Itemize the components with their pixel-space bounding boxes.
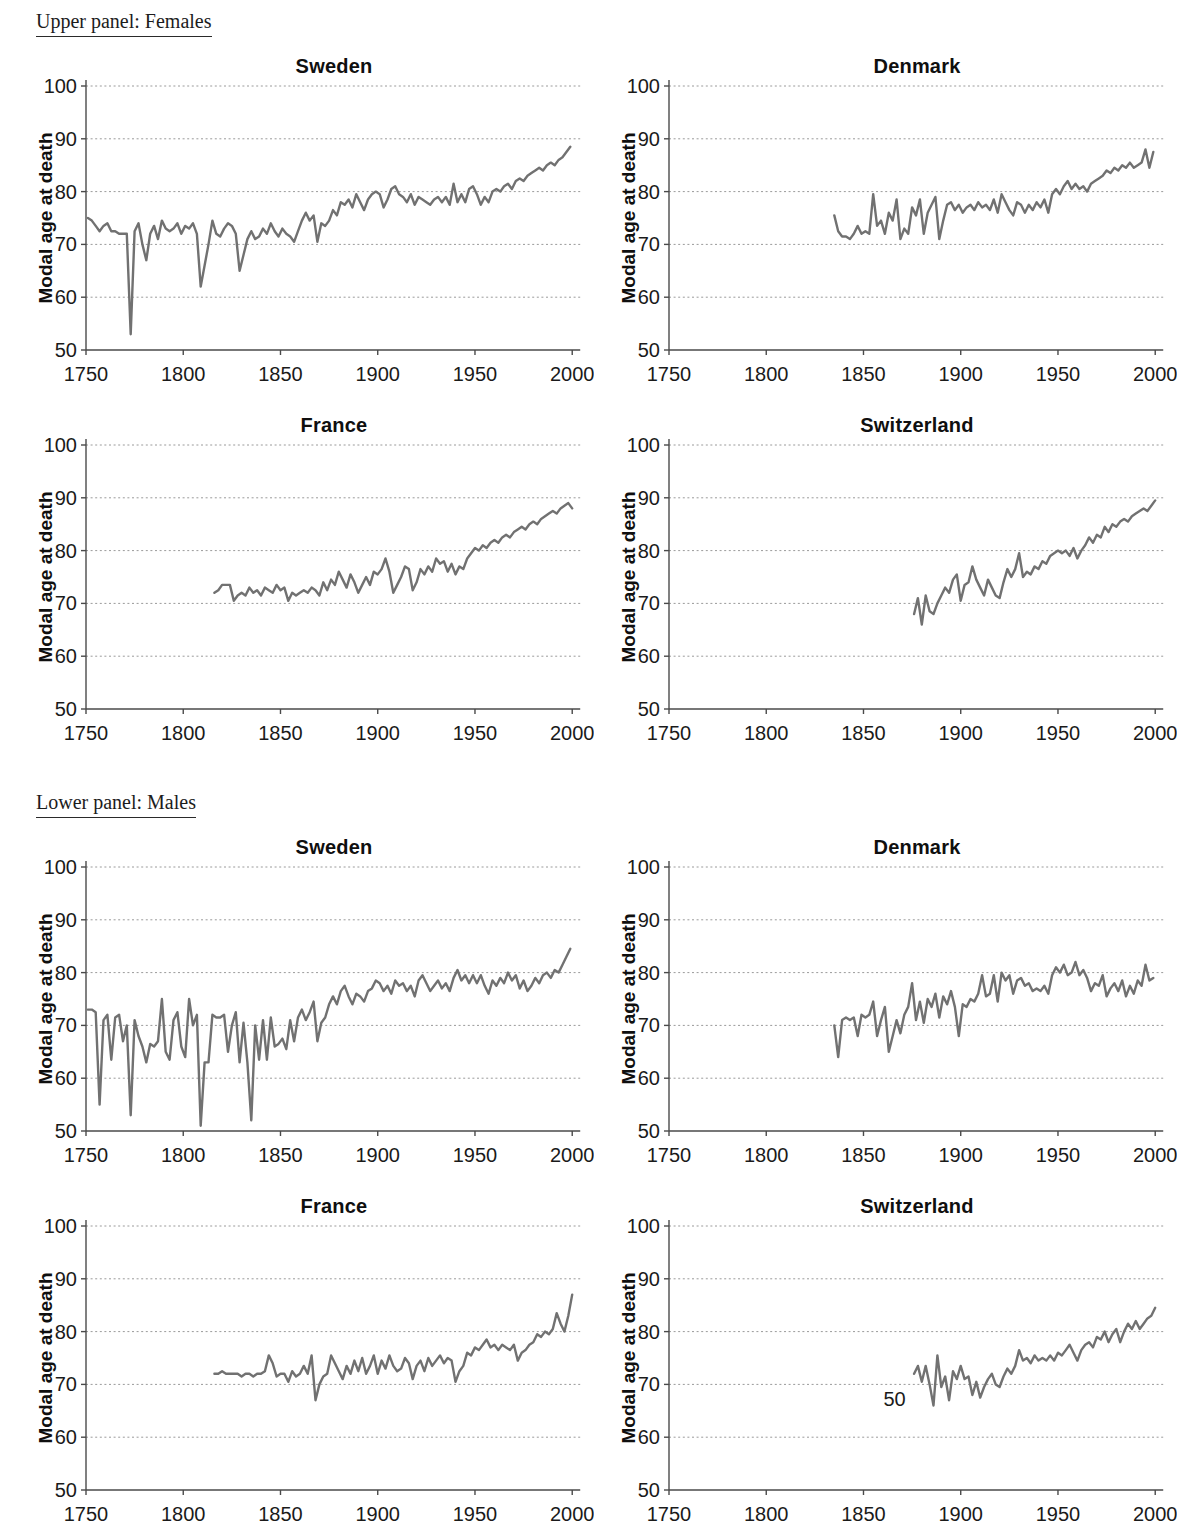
y-tick-label: 80 bbox=[638, 540, 660, 562]
chart-denmark-females: Denmark506070809010017501800185019001950… bbox=[617, 49, 1177, 390]
y-tick-label: 60 bbox=[55, 645, 77, 667]
chart-sweden-males: Sweden5060708090100175018001850190019502… bbox=[34, 830, 594, 1171]
x-tick-label: 1800 bbox=[161, 722, 206, 744]
x-tick-label: 1800 bbox=[744, 1503, 789, 1525]
y-axis-title: Modal age at death bbox=[35, 913, 56, 1084]
x-tick-label: 1950 bbox=[1036, 363, 1081, 385]
y-tick-label: 80 bbox=[55, 181, 77, 203]
x-tick-label: 2000 bbox=[550, 1144, 594, 1166]
panel-header-males-text: Lower panel: Males bbox=[36, 791, 196, 818]
y-tick-label: 70 bbox=[638, 1373, 660, 1395]
y-axis-title: Modal age at death bbox=[618, 132, 639, 303]
chart-plot-denmark-females: 5060708090100175018001850190019502000Mod… bbox=[617, 78, 1177, 390]
chart-sweden-females: Sweden5060708090100175018001850190019502… bbox=[34, 49, 594, 390]
y-tick-label: 100 bbox=[44, 437, 77, 456]
y-tick-label: 90 bbox=[55, 487, 77, 509]
y-tick-label: 50 bbox=[55, 698, 77, 720]
x-tick-label: 1950 bbox=[453, 363, 498, 385]
x-tick-label: 1750 bbox=[647, 1144, 692, 1166]
x-tick-label: 1900 bbox=[355, 722, 400, 744]
chart-plot-switzerland-males: 5060708090100175018001850190019502000Mod… bbox=[617, 1218, 1177, 1530]
x-tick-label: 1950 bbox=[1036, 1503, 1081, 1525]
y-tick-label: 60 bbox=[55, 286, 77, 308]
y-tick-label: 90 bbox=[55, 909, 77, 931]
y-tick-label: 60 bbox=[638, 645, 660, 667]
y-axis-title: Modal age at death bbox=[35, 132, 56, 303]
x-tick-label: 1950 bbox=[453, 1503, 498, 1525]
y-axis-title: Modal age at death bbox=[35, 491, 56, 662]
chart-title-denmark-males: Denmark bbox=[617, 836, 1177, 859]
y-tick-label: 70 bbox=[55, 1014, 77, 1036]
y-tick-label: 50 bbox=[638, 698, 660, 720]
y-tick-label: 50 bbox=[55, 1479, 77, 1501]
males-chart-grid: Sweden5060708090100175018001850190019502… bbox=[34, 830, 1177, 1530]
x-tick-label: 2000 bbox=[1133, 1144, 1177, 1166]
x-tick-label: 1750 bbox=[64, 722, 109, 744]
females-chart-grid: Sweden5060708090100175018001850190019502… bbox=[34, 49, 1177, 749]
x-tick-label: 1800 bbox=[161, 1144, 206, 1166]
y-tick-label: 80 bbox=[55, 962, 77, 984]
data-line-switzerland-females bbox=[914, 500, 1155, 624]
x-tick-label: 1750 bbox=[64, 1144, 109, 1166]
y-tick-label: 80 bbox=[55, 540, 77, 562]
x-tick-label: 1750 bbox=[647, 363, 692, 385]
y-tick-label: 80 bbox=[638, 962, 660, 984]
panel-females: Upper panel: Females Sweden5060708090100… bbox=[34, 10, 1177, 749]
y-tick-label: 90 bbox=[638, 1268, 660, 1290]
y-tick-label: 70 bbox=[638, 592, 660, 614]
x-tick-label: 1900 bbox=[355, 363, 400, 385]
y-tick-label: 60 bbox=[638, 1067, 660, 1089]
data-line-sweden-males bbox=[88, 949, 570, 1126]
data-line-denmark-males bbox=[834, 962, 1153, 1057]
chart-plot-france-females: 5060708090100175018001850190019502000Mod… bbox=[34, 437, 594, 749]
y-tick-label: 70 bbox=[55, 592, 77, 614]
y-axis-title: Modal age at death bbox=[618, 491, 639, 662]
y-tick-label: 80 bbox=[638, 1321, 660, 1343]
x-tick-label: 1750 bbox=[647, 1503, 692, 1525]
x-tick-label: 1850 bbox=[258, 722, 303, 744]
chart-switzerland-females: Switzerland50607080901001750180018501900… bbox=[617, 408, 1177, 749]
y-tick-label: 50 bbox=[638, 1120, 660, 1142]
y-tick-label: 100 bbox=[44, 1218, 77, 1237]
panel-header-males: Lower panel: Males bbox=[36, 791, 1177, 818]
x-tick-label: 1750 bbox=[64, 363, 109, 385]
x-tick-label: 1900 bbox=[938, 363, 983, 385]
x-tick-label: 1900 bbox=[938, 722, 983, 744]
x-tick-label: 1850 bbox=[258, 1144, 303, 1166]
y-tick-label: 70 bbox=[638, 233, 660, 255]
x-tick-label: 1850 bbox=[841, 1144, 886, 1166]
x-tick-label: 1800 bbox=[744, 722, 789, 744]
x-tick-label: 1800 bbox=[161, 363, 206, 385]
y-tick-label: 70 bbox=[55, 1373, 77, 1395]
x-tick-label: 1800 bbox=[161, 1503, 206, 1525]
y-tick-label: 70 bbox=[55, 233, 77, 255]
chart-title-denmark-females: Denmark bbox=[617, 55, 1177, 78]
panel-header-females-text: Upper panel: Females bbox=[36, 10, 212, 37]
y-tick-label: 100 bbox=[44, 859, 77, 878]
y-tick-label: 100 bbox=[627, 859, 660, 878]
data-line-sweden-females bbox=[88, 147, 570, 335]
y-tick-label: 50 bbox=[55, 339, 77, 361]
y-tick-label: 90 bbox=[638, 909, 660, 931]
chart-plot-france-males: 5060708090100175018001850190019502000Mod… bbox=[34, 1218, 594, 1530]
data-line-switzerland-males bbox=[914, 1308, 1155, 1406]
x-tick-label: 1850 bbox=[841, 722, 886, 744]
chart-title-switzerland-males: Switzerland bbox=[617, 1195, 1177, 1218]
chart-switzerland-males: Switzerland50607080901001750180018501900… bbox=[617, 1189, 1177, 1530]
y-axis-title: Modal age at death bbox=[618, 1272, 639, 1443]
chart-title-sweden-males: Sweden bbox=[34, 836, 594, 859]
y-tick-label: 90 bbox=[638, 487, 660, 509]
x-tick-label: 2000 bbox=[1133, 1503, 1177, 1525]
x-tick-label: 2000 bbox=[1133, 363, 1177, 385]
x-tick-label: 1850 bbox=[258, 1503, 303, 1525]
y-tick-label: 60 bbox=[638, 286, 660, 308]
y-tick-label: 90 bbox=[55, 128, 77, 150]
x-tick-label: 1800 bbox=[744, 1144, 789, 1166]
y-axis-title: Modal age at death bbox=[35, 1272, 56, 1443]
y-tick-label: 100 bbox=[44, 78, 77, 97]
figure-page: Upper panel: Females Sweden5060708090100… bbox=[0, 0, 1193, 1540]
x-tick-label: 1750 bbox=[64, 1503, 109, 1525]
x-tick-label: 1850 bbox=[258, 363, 303, 385]
chart-plot-sweden-females: 5060708090100175018001850190019502000Mod… bbox=[34, 78, 594, 390]
x-tick-label: 1950 bbox=[1036, 722, 1081, 744]
